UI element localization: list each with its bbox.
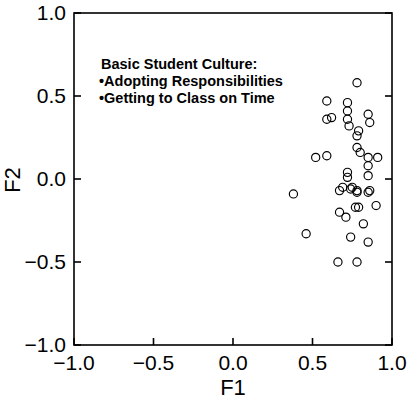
- cluster-annotation-line-2: •Getting to Class on Time: [99, 90, 275, 106]
- scatter-plot-figure: −1.0−0.50.00.51.0 −1.0−0.50.00.51.0 Basi…: [0, 0, 414, 401]
- y-tick-label-3: 0.5: [37, 84, 66, 107]
- y-tick-label-0: −1.0: [25, 333, 66, 356]
- plot-annotations: Basic Student Culture:•Adopting Responsi…: [99, 56, 283, 106]
- y-tick-label-2: 0.0: [37, 167, 66, 190]
- y-axis-label: F2: [0, 167, 25, 193]
- x-axis-label: F1: [220, 375, 246, 400]
- cluster-annotation: Basic Student Culture:•Adopting Responsi…: [99, 56, 283, 106]
- y-tick-label-4: 1.0: [37, 1, 66, 24]
- x-tick-label-4: 1.0: [377, 351, 406, 374]
- x-tick-label-3: 0.5: [298, 351, 327, 374]
- y-tick-label-1: −0.5: [25, 250, 66, 273]
- x-tick-label-2: 0.0: [218, 351, 247, 374]
- cluster-annotation-line-1: •Adopting Responsibilities: [99, 73, 283, 89]
- cluster-annotation-line-0: Basic Student Culture:: [101, 56, 257, 72]
- x-tick-label-1: −0.5: [133, 351, 174, 374]
